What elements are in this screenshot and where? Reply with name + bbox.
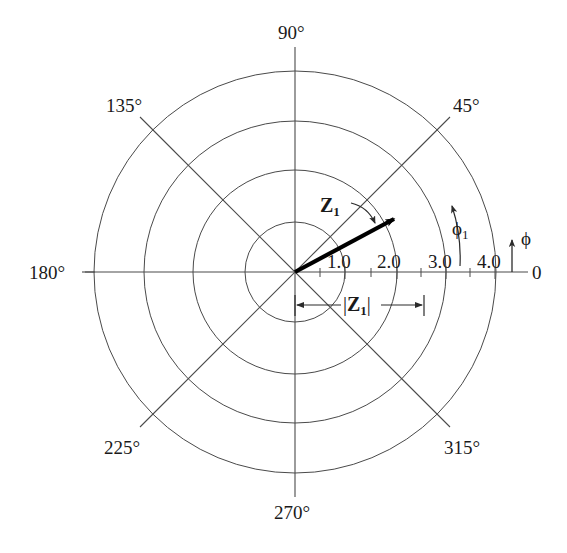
phase-direction-label-phi: ϕ [521,229,531,248]
angle-label-180: 180° [29,263,65,282]
radial-tick-label-3: 3.0 [428,252,452,271]
vector-label-subscript: 1 [333,204,340,219]
angle-label-0: 0 [532,263,542,282]
vector-label-z1: Z1 [320,195,340,218]
polar-plot-figure: 90° 135° 45° 180° 0 225° 315° 270° 1.0 2… [0,0,567,553]
angle-label-135: 135° [106,96,142,115]
magnitude-bar-close: | [367,293,371,315]
phi1-subscript: 1 [462,227,469,242]
phi1-symbol: ϕ [452,218,462,239]
radial-tick-label-4: 4.0 [477,252,501,271]
radial-tick-label-1: 1.0 [327,252,351,271]
phase-angle-label-phi1: ϕ1 [452,219,469,241]
angle-label-90: 90° [278,23,305,42]
polar-plot-canvas [0,0,567,553]
angle-label-270: 270° [274,503,310,522]
angle-label-45: 45° [453,96,480,115]
angle-label-315: 315° [444,438,480,457]
angle-label-225: 225° [104,438,140,457]
magnitude-label-z1: |Z1| [343,294,371,317]
magnitude-base: Z [347,293,360,315]
radial-tick-label-2: 2.0 [377,252,401,271]
vector-label-base: Z [320,194,333,216]
